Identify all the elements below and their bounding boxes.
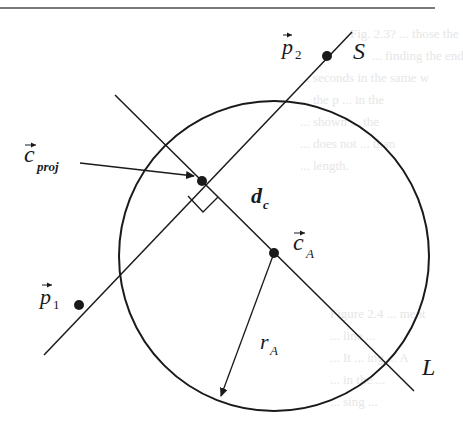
- label-d-c-main: d: [251, 183, 263, 208]
- label-r-a-main: r: [260, 329, 269, 354]
- label-p2-sub: 2: [295, 47, 302, 62]
- label-d-c: d c: [251, 183, 269, 212]
- label-segment-s: S: [353, 38, 365, 64]
- label-c-proj-sub: proj: [36, 159, 59, 174]
- bleed-line: ... finding the end: [372, 48, 463, 63]
- label-p2: p 2: [280, 34, 302, 62]
- point-c-a: [269, 248, 279, 258]
- radius-arrow: [221, 253, 274, 396]
- label-c-a-sub: A: [305, 246, 314, 261]
- point-c-proj: [197, 176, 207, 186]
- label-d-c-sub: c: [263, 197, 269, 212]
- label-line-l: L: [421, 354, 435, 380]
- label-r-a: r A: [260, 329, 278, 358]
- bleed-line: Fig. 2.3? ... those the: [350, 26, 459, 41]
- label-p1-main: p: [38, 284, 51, 309]
- label-p1: p 1: [38, 284, 60, 312]
- cproj-pointer-arrow: [80, 163, 194, 176]
- diagram-canvas: Fig. 2.3? ... those the ... finding the …: [0, 0, 463, 433]
- label-r-a-sub: A: [269, 343, 278, 358]
- label-p1-sub: 1: [53, 297, 60, 312]
- bleed-line: Figure 2.4 ... ment: [330, 306, 426, 321]
- label-c-proj-main: c: [24, 141, 35, 167]
- point-p2: [322, 51, 332, 61]
- label-c-a: c A: [293, 229, 314, 261]
- bleed-line: ... the p ... in the: [300, 92, 384, 107]
- label-c-a-main: c: [293, 229, 304, 255]
- point-p1: [74, 300, 84, 310]
- bleed-line: ... It ... ing ... A: [330, 350, 409, 365]
- bleed-line: ... seconds in the same w: [300, 70, 430, 85]
- bleed-line: ... length.: [300, 158, 349, 173]
- background-bleed-text: Fig. 2.3? ... those the ... finding the …: [300, 26, 463, 409]
- label-c-proj: c proj: [24, 141, 59, 174]
- bleed-line: ... in the ...: [330, 372, 385, 387]
- bleed-line: ... sing ...: [330, 394, 378, 409]
- label-p2-main: p: [280, 34, 293, 59]
- segment-s-line: [44, 32, 352, 355]
